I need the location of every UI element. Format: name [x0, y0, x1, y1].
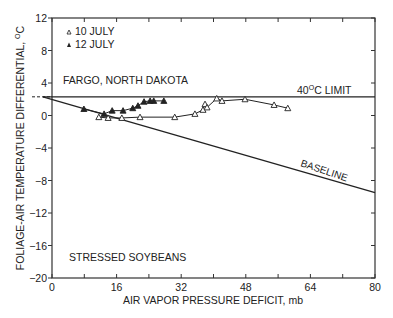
y-tick-label: −12 [29, 207, 47, 219]
x-tick-label: 80 [369, 281, 381, 293]
x-tick-label: 64 [305, 281, 317, 293]
y-tick-labels: 12840−4−8−12−16−20 [29, 12, 47, 284]
open-triangle-marker [192, 111, 198, 117]
y-tick-label: 0 [41, 110, 47, 122]
x-tick-label: 48 [240, 281, 252, 293]
legend-label-12-july: 12 JULY [75, 38, 115, 50]
y-tick-label: −20 [29, 272, 47, 284]
open-triangle-icon [67, 30, 71, 34]
y-tick-label: 4 [41, 77, 47, 89]
x-tick-label: 32 [175, 281, 187, 293]
y-tick-label: −8 [35, 175, 47, 187]
filled-triangle-marker [135, 103, 141, 109]
y-tick-label: −4 [35, 142, 47, 154]
legend: 10 JULY 12 JULY [67, 25, 115, 50]
x-axis-label: AIR VAPOR PRESSURE DEFICIT, mb [123, 294, 303, 306]
x-tick-labels: 01632486480 [49, 281, 381, 293]
chart: 12840−4−8−12−16−20 01632486480 10 JULY 1… [0, 0, 393, 318]
legend-label-10-july: 10 JULY [75, 25, 115, 37]
x-tick-label: 0 [49, 281, 55, 293]
y-tick-label: 8 [41, 45, 47, 57]
x-tick-label: 16 [111, 281, 123, 293]
y-tick-label: −16 [29, 240, 47, 252]
crop-annotation: STRESSED SOYBEANS [69, 251, 186, 263]
limit-annotation: 40OC LIMIT [297, 84, 352, 96]
plot-border [52, 18, 375, 278]
plot-frame [48, 18, 375, 278]
y-tick-label: 12 [35, 12, 47, 24]
filled-triangle-icon [67, 43, 71, 48]
baseline-annotation: BASELINE [299, 157, 349, 183]
y-axis-label: FOLIAGE-AIR TEMPERATURE DIFFERENTIAL, OC [14, 25, 26, 270]
location-annotation: FARGO, NORTH DAKOTA [63, 74, 188, 86]
